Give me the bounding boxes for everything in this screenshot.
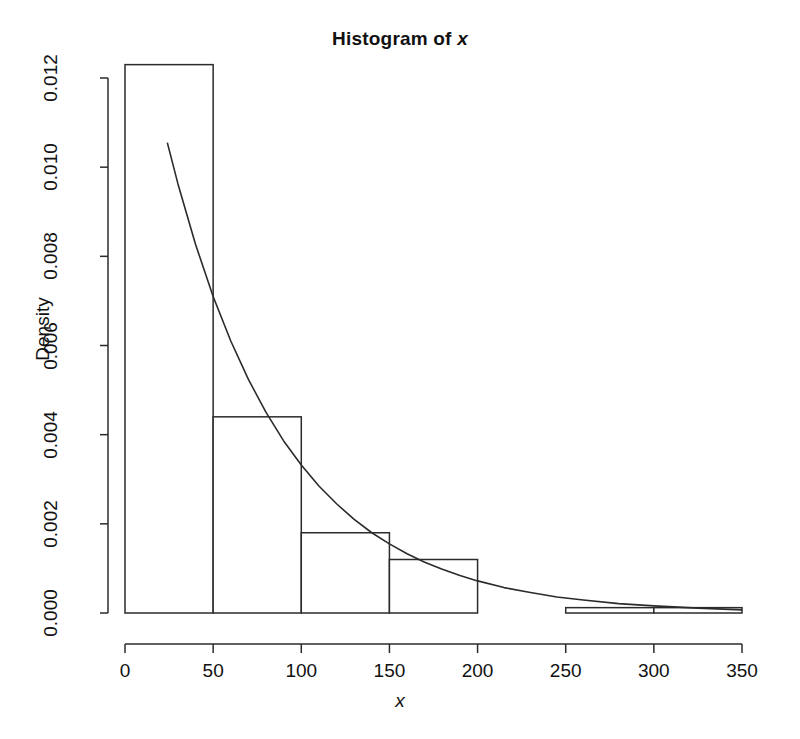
x-tick-label: 250 (531, 660, 601, 682)
histogram-bar (566, 608, 654, 613)
histogram-figure: Histogram of x Density x 0.0000.0020.004… (0, 0, 800, 739)
histogram-bar (301, 533, 389, 613)
x-tick-label: 350 (707, 660, 777, 682)
x-tick-label: 50 (178, 660, 248, 682)
histogram-bars (125, 65, 742, 613)
x-tick-label: 100 (266, 660, 336, 682)
y-tick-label: 0.002 (40, 479, 62, 569)
y-tick-label: 0.012 (40, 33, 62, 123)
histogram-bar (389, 560, 477, 614)
x-axis (125, 644, 742, 653)
x-tick-label: 200 (443, 660, 513, 682)
y-tick-label: 0.004 (40, 390, 62, 480)
x-tick-label: 0 (90, 660, 160, 682)
y-tick-label: 0.010 (40, 122, 62, 212)
y-tick-label: 0.006 (40, 301, 62, 391)
plot-canvas (0, 0, 800, 739)
y-tick-label: 0.008 (40, 211, 62, 301)
x-tick-label: 300 (619, 660, 689, 682)
y-tick-label: 0.000 (40, 568, 62, 658)
x-tick-label: 150 (354, 660, 424, 682)
y-axis (100, 78, 108, 613)
